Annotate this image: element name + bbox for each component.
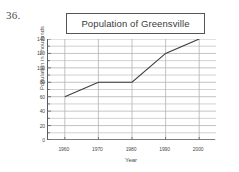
x-tick-label: 1980 (126, 146, 137, 152)
plot-svg (48, 39, 216, 140)
x-axis-label: Year (47, 157, 215, 163)
problem-number: 36. (6, 9, 20, 21)
y-tick-label: 40 (40, 108, 45, 114)
y-tick-label: 20 (40, 123, 45, 129)
x-tick-label: 1990 (159, 146, 170, 152)
y-tick-label: 60 (40, 94, 45, 100)
x-tick-label: 1960 (58, 146, 69, 152)
x-axis-tick-labels: 19601970198019902000 (47, 146, 215, 156)
y-tick-label: 0 (42, 137, 45, 143)
y-axis-tick-labels: 020406080100120140 (33, 39, 45, 140)
y-tick-label: 120 (37, 50, 45, 56)
y-tick-label: 140 (37, 36, 45, 42)
y-tick-label: 80 (40, 79, 45, 85)
plot-area (47, 39, 215, 140)
chart-title-box: Population of Greensville (66, 13, 205, 34)
chart-title: Population of Greensville (81, 18, 189, 29)
y-tick-label: 100 (37, 65, 45, 71)
x-tick-label: 1970 (92, 146, 103, 152)
x-axis-ticks (65, 137, 199, 140)
x-tick-label: 2000 (193, 146, 204, 152)
population-chart-figure: 36. Population of Greensville Population… (0, 0, 239, 172)
